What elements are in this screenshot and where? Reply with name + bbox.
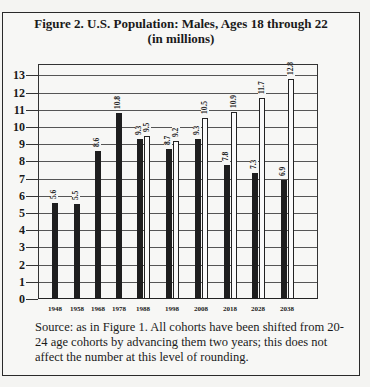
y-tick-mark <box>26 265 38 266</box>
source-text: Source: as in Figure 1. All cohorts have… <box>18 320 353 365</box>
y-tick-mark <box>26 93 38 94</box>
x-tick-label: 2008 <box>188 305 214 313</box>
x-tick-label: 1998 <box>159 305 185 313</box>
y-tick-label: 3 <box>0 241 25 253</box>
x-tick-label: 2038 <box>274 305 300 313</box>
y-tick-label: 5 <box>0 207 25 219</box>
y-tick-mark <box>26 179 38 180</box>
title-subtitle-units: (in millions) <box>0 31 362 46</box>
y-tick-mark <box>26 127 38 128</box>
y-tick-label: 9 <box>0 138 25 150</box>
y-tick-label: 1 <box>0 276 25 288</box>
y-tick-mark <box>26 161 38 162</box>
plot-area <box>38 64 318 299</box>
y-tick-label: 4 <box>0 224 25 236</box>
y-tick-label: 6 <box>0 190 25 202</box>
y-tick-label: 7 <box>0 173 25 185</box>
y-tick-mark <box>26 213 38 214</box>
y-tick-label: 11 <box>0 104 25 116</box>
source-note: Source: as in Figure 1. All cohorts have… <box>18 320 353 365</box>
y-tick-label: 8 <box>0 155 25 167</box>
x-tick-label: 2018 <box>217 305 243 313</box>
y-tick-label: 10 <box>0 121 25 133</box>
y-tick-mark <box>26 282 38 283</box>
y-tick-label: 2 <box>0 259 25 271</box>
y-tick-label: 12 <box>0 87 25 99</box>
x-tick-label: 2028 <box>245 305 271 313</box>
y-tick-mark <box>26 230 38 231</box>
y-tick-mark <box>26 75 38 76</box>
y-tick-mark <box>26 110 38 111</box>
chart-title: Figure 2. U.S. Population: Males, Ages 1… <box>0 16 362 46</box>
y-tick-mark <box>26 247 38 248</box>
y-tick-label: 0 <box>0 293 25 305</box>
y-tick-mark <box>26 196 38 197</box>
y-tick-mark <box>26 144 38 145</box>
x-tick-label: 1988 <box>130 305 156 313</box>
title-line-1: Figure 2. U.S. Population: Males, Ages 1… <box>0 16 362 31</box>
x-tick-label: 1978 <box>106 305 132 313</box>
y-tick-label: 13 <box>0 69 25 81</box>
y-tick-mark <box>26 299 38 300</box>
